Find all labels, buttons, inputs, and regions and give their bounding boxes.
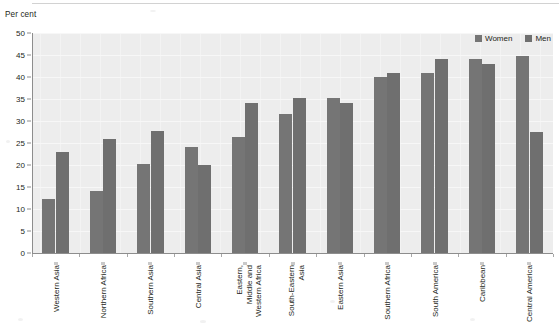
legend-label: Women xyxy=(485,34,512,43)
y-tick-mark xyxy=(27,165,31,166)
x-axis-label: South America xyxy=(431,265,441,333)
bar-men xyxy=(435,59,448,253)
x-axis-line xyxy=(32,253,553,254)
x-axis-label-line: Middle and xyxy=(244,265,254,333)
x-tick-mark xyxy=(553,254,554,257)
legend-label: Men xyxy=(535,34,551,43)
y-tick-label: 25 xyxy=(16,139,25,148)
x-tick-mark xyxy=(269,254,270,257)
x-tick-mark xyxy=(411,254,412,257)
bar-women xyxy=(516,56,529,253)
y-tick-label: 35 xyxy=(16,95,25,104)
y-tick-label: 45 xyxy=(16,51,25,60)
bar-women xyxy=(42,199,55,253)
bar-men xyxy=(482,64,495,253)
y-tick-mark xyxy=(27,209,31,210)
x-axis-label: Caribbean xyxy=(478,265,488,333)
x-axis-label-line: Eastern, xyxy=(235,265,245,333)
bar-women xyxy=(327,98,340,253)
x-tick-mark xyxy=(79,254,80,257)
bar-men xyxy=(530,132,543,253)
x-axis-label: South-EasternAsia xyxy=(287,265,306,333)
x-tick-mark xyxy=(364,254,365,257)
bar-men xyxy=(151,131,164,253)
y-tick-label: 15 xyxy=(16,183,25,192)
x-axis-label: Northern Africa xyxy=(99,265,109,333)
bar-women xyxy=(137,164,150,253)
y-axis-line xyxy=(32,33,33,254)
bar-women xyxy=(374,77,387,253)
bar-men xyxy=(245,103,258,253)
y-tick-mark xyxy=(27,253,31,254)
x-tick-mark xyxy=(506,254,507,257)
y-tick-mark xyxy=(27,55,31,56)
bar-women xyxy=(185,147,198,253)
y-tick-mark xyxy=(27,187,31,188)
x-axis-label-line: Western Africa xyxy=(254,265,264,333)
x-axis-label: Southern Africa xyxy=(383,265,393,333)
scan-artifact xyxy=(6,140,10,143)
y-tick-mark xyxy=(27,33,31,34)
bar-men xyxy=(387,73,400,253)
legend-item-women[interactable]: Women xyxy=(475,34,512,43)
x-tick-mark xyxy=(127,254,128,257)
chart-legend: WomenMen xyxy=(475,34,551,43)
bar-women xyxy=(469,59,482,253)
x-tick-mark xyxy=(221,254,222,257)
bar-men xyxy=(56,152,69,253)
y-tick-mark xyxy=(27,231,31,232)
legend-item-men[interactable]: Men xyxy=(525,34,551,43)
scan-artifact xyxy=(18,318,23,321)
y-tick-label: 30 xyxy=(16,117,25,126)
bar-women xyxy=(279,114,292,253)
x-axis-label-line: Asia xyxy=(297,265,307,333)
bar-men xyxy=(293,98,306,253)
scan-artifact xyxy=(200,320,206,323)
y-tick-label: 50 xyxy=(16,29,25,38)
y-tick-mark xyxy=(27,121,31,122)
x-axis-label: Southern Asia xyxy=(146,265,156,333)
bar-men xyxy=(198,165,211,253)
square-swatch-icon xyxy=(475,35,482,42)
x-tick-mark xyxy=(316,254,317,257)
y-axis-title: Per cent xyxy=(5,10,36,19)
square-swatch-icon xyxy=(525,35,532,42)
bar-women xyxy=(90,191,103,253)
gridline xyxy=(32,55,553,56)
y-tick-label: 0 xyxy=(21,249,25,258)
x-tick-mark xyxy=(458,254,459,257)
x-tick-mark xyxy=(32,254,33,257)
chart-figure: Per cent 05101520253035404550 Western As… xyxy=(0,0,559,333)
bar-women xyxy=(421,73,434,253)
bar-men xyxy=(103,139,116,253)
top-divider xyxy=(32,3,559,4)
scan-artifact xyxy=(150,10,156,12)
x-tick-mark xyxy=(174,254,175,257)
scan-artifact xyxy=(330,300,335,303)
scan-artifact xyxy=(470,318,475,321)
y-tick-label: 40 xyxy=(16,73,25,82)
y-tick-mark xyxy=(27,77,31,78)
y-tick-mark xyxy=(27,143,31,144)
x-axis-label: Western Asia xyxy=(52,265,62,333)
y-tick-label: 5 xyxy=(21,227,25,236)
bar-women xyxy=(232,137,245,253)
x-axis-label: Eastern,Middle andWestern Africa xyxy=(235,265,264,333)
x-axis-label-line: South-Eastern xyxy=(287,265,297,333)
bar-men xyxy=(340,103,353,253)
y-tick-label: 20 xyxy=(16,161,25,170)
x-axis-label: Central America xyxy=(525,265,535,333)
x-axis-label: Eastern Asia xyxy=(336,265,346,333)
y-tick-label: 10 xyxy=(16,205,25,214)
y-tick-mark xyxy=(27,99,31,100)
